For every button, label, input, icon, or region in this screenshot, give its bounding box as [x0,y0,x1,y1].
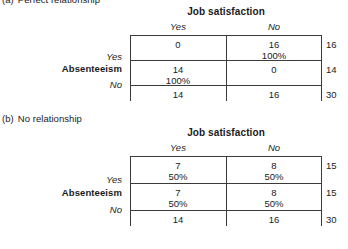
panel-a-cell-yes-yes-count: 0 [130,39,226,50]
panel-b-cell-yes-no: 8 50% [226,160,322,182]
panel-a-grand-total: 30 [326,89,337,100]
panel-a-caption-text: Perfect relationship [18,0,100,5]
panel-b-caption-text: No relationship [18,113,82,124]
panel-a-column-margin-no: 16 [226,89,322,100]
panel-a-column-title: Job satisfaction [130,6,322,17]
panel-a-table: 0 16 100% 14 100% 0 14 16 [130,35,322,101]
panel-a-row-margin-no: 14 [326,64,337,75]
panel-a-caption-tag: (a) [2,0,14,5]
panel-b-column-header-yes: Yes [130,142,226,153]
panel-b-column-margin-yes: 14 [130,214,226,225]
panel-a-row-header-no: No [110,79,122,90]
panel-b-row-header-yes: Yes [106,174,122,185]
panel-a: (a)Perfect relationship Job satisfaction… [0,0,348,118]
panel-b-row-margin-yes: 15 [326,160,337,171]
panel-a-caption: (a)Perfect relationship [2,0,100,5]
panel-b-row-group-label: Absenteeism [62,187,122,198]
panel-a-column-margin-yes-value: 14 [130,89,226,100]
panel-a-cell-yes-yes: 0 [130,39,226,50]
panel-b-table: 7 50% 8 50% 7 50% 8 50% 14 16 [130,156,322,226]
panel-b-column-header-no: No [226,142,322,153]
panel-b-cell-yes-no-count: 8 [226,160,322,171]
panel-b-cell-no-yes: 7 50% [130,187,226,209]
panel-b-cell-no-no-count: 8 [226,187,322,198]
panel-b-grand-total: 30 [326,214,337,225]
panel-b-column-margin-no: 16 [226,214,322,225]
panel-b-column-title: Job satisfaction [130,127,322,138]
panel-b-cell-no-no: 8 50% [226,187,322,209]
panel-a-column-header-no: No [226,21,322,32]
panel-b-cell-no-yes-percent: 50% [130,198,226,209]
panel-b-cell-yes-yes-count: 7 [130,160,226,171]
panel-b-caption-tag: (b) [2,113,14,124]
panel-a-cell-no-no: 0 [226,64,322,75]
panel-a-cell-no-yes: 14 100% [130,64,226,86]
panel-b-caption: (b)No relationship [2,113,82,124]
panel-a-cell-no-yes-percent: 100% [130,75,226,86]
panel-b-row-margin-no: 15 [326,187,337,198]
panel-a-column-headers: Yes No [130,21,322,35]
panel-b-column-margin-no-value: 16 [226,214,322,225]
panel-a-column-margin-yes: 14 [130,89,226,100]
panel-b-column-headers: Yes No [130,142,322,156]
panel-b-cell-no-yes-count: 7 [130,187,226,198]
panel-a-cell-yes-no-percent: 100% [226,50,322,61]
panel-a-column-header-yes: Yes [130,21,226,32]
panel-b: (b)No relationship Job satisfaction Yes … [0,113,348,249]
panel-a-cell-yes-no-count: 16 [226,39,322,50]
panel-b-cell-yes-yes: 7 50% [130,160,226,182]
panel-a-row-margin-yes: 16 [326,39,337,50]
panel-a-cell-no-no-count: 0 [226,64,322,75]
panel-a-row-header-yes: Yes [106,51,122,62]
panel-b-row-header-no: No [110,204,122,215]
panel-a-cell-yes-no: 16 100% [226,39,322,61]
panel-a-column-margin-no-value: 16 [226,89,322,100]
panel-a-cell-no-yes-count: 14 [130,64,226,75]
panel-b-column-margin-yes-value: 14 [130,214,226,225]
panel-b-cell-no-no-percent: 50% [226,198,322,209]
panel-b-cell-yes-no-percent: 50% [226,171,322,182]
panel-a-row-group-label: Absenteeism [62,63,122,74]
panel-b-cell-yes-yes-percent: 50% [130,171,226,182]
